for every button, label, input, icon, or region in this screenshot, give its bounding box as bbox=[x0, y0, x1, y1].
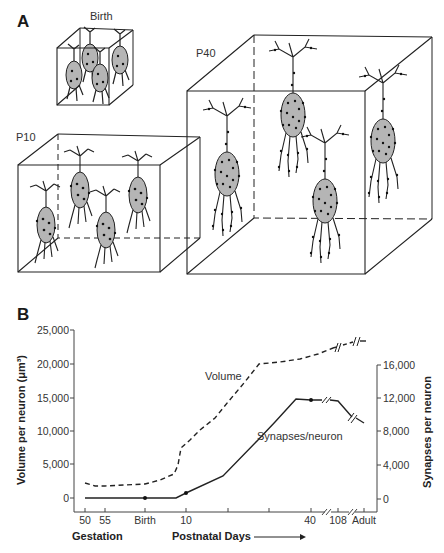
x-axis: 50 55 Birth 10 40 108 Adult Gestation Po… bbox=[72, 508, 377, 542]
x-tick-10: 10 bbox=[180, 514, 192, 526]
y-left-tick-5000: 5,000 bbox=[43, 458, 69, 470]
y-right-tick-4000: 4,000 bbox=[383, 459, 409, 471]
series-volume: Volume bbox=[85, 337, 366, 486]
arrow-right-icon bbox=[300, 534, 306, 540]
marker-birth bbox=[143, 496, 147, 500]
x-tick-108: 108 bbox=[329, 514, 347, 526]
marker-day10 bbox=[184, 491, 188, 495]
y-right-tick-8000: 8,000 bbox=[383, 425, 409, 437]
x-title-postnatal: Postnatal Days bbox=[172, 530, 251, 542]
series-synapses: Synapses/neuron bbox=[85, 397, 364, 500]
y-left-tick-25000: 25,000 bbox=[37, 324, 69, 336]
marker-day40 bbox=[309, 398, 313, 402]
y-axis-right: 16,000 12,000 8,000 4,000 0 Synapses per… bbox=[377, 359, 433, 512]
x-tick-birth: Birth bbox=[134, 514, 156, 526]
y-left-tick-15000: 15,000 bbox=[37, 392, 69, 404]
y-left-tick-20000: 20,000 bbox=[37, 358, 69, 370]
y-right-tick-16000: 16,000 bbox=[383, 359, 415, 371]
y-right-title: Synapses per neuron bbox=[421, 376, 433, 488]
y-axis-left: 25,000 20,000 15,000 10,000 5,000 0 Volu… bbox=[15, 324, 74, 512]
x-title-gestation: Gestation bbox=[72, 530, 123, 542]
y-left-title: Volume per neuron (μm³) bbox=[15, 355, 27, 485]
y-right-tick-0: 0 bbox=[383, 493, 389, 505]
x-tick-55: 55 bbox=[99, 514, 111, 526]
y-right-tick-12000: 12,000 bbox=[383, 392, 415, 404]
x-tick-40: 40 bbox=[304, 514, 316, 526]
y-left-tick-10000: 10,000 bbox=[37, 425, 69, 437]
series-label-synapses: Synapses/neuron bbox=[257, 430, 343, 442]
x-tick-50: 50 bbox=[79, 514, 91, 526]
series-label-volume: Volume bbox=[205, 370, 242, 382]
panel-b-chart: 25,000 20,000 15,000 10,000 5,000 0 Volu… bbox=[0, 0, 444, 553]
x-tick-adult: Adult bbox=[352, 514, 376, 526]
y-left-tick-0: 0 bbox=[63, 492, 69, 504]
